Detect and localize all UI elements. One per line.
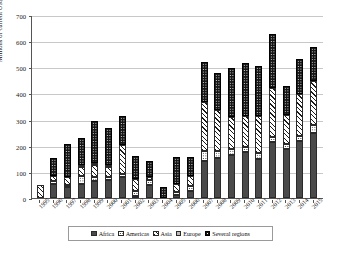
legend-item-americas[interactable]: Americas [118, 230, 149, 237]
stacked-bar[interactable] [78, 138, 85, 198]
bar-segment-several-regions [228, 68, 235, 117]
bar-segment-asia [64, 177, 71, 185]
bar-segment-africa [64, 187, 71, 198]
y-axis-tick-labels: 0100200300400500600700 [0, 0, 29, 256]
bar-segment-asia [296, 94, 303, 136]
stacked-bar[interactable] [50, 158, 57, 198]
swatch-europe-icon [176, 231, 182, 237]
bar-segment-asia [269, 88, 276, 137]
bar-segment-africa [214, 158, 221, 198]
stacked-bar[interactable] [105, 128, 112, 198]
y-tick-label: 0 [23, 196, 26, 203]
bar-segment-several-regions [146, 161, 153, 177]
legend-item-africa[interactable]: Africa [91, 230, 114, 237]
chart-legend: AfricaAmericasAsiaEuropeSeveral regions [68, 226, 273, 241]
bar-segment-africa [310, 133, 317, 198]
y-tick-label: 300 [16, 117, 26, 124]
bar-segment-asia [214, 110, 221, 152]
stacked-bar[interactable] [64, 144, 71, 198]
legend-item-europe[interactable]: Europe [176, 230, 201, 237]
bar-segment-africa [255, 159, 262, 198]
y-tick-label: 700 [16, 13, 26, 20]
swatch-africa-icon [91, 231, 97, 237]
stacked-bar[interactable] [255, 66, 262, 198]
legend-label: Africa [99, 230, 115, 237]
stacked-bar[interactable] [310, 47, 317, 198]
swatch-asia-icon [153, 231, 159, 237]
bar-segment-africa [146, 185, 153, 198]
bar-segment-several-regions [214, 73, 221, 110]
bar-segment-several-regions [119, 116, 126, 145]
bar-segment-africa [269, 142, 276, 198]
bar-segment-several-regions [64, 144, 71, 177]
bar-segment-africa [228, 155, 235, 198]
bar-segment-several-regions [50, 158, 57, 176]
bar-segment-asia [119, 145, 126, 174]
legend-label: Europe [183, 230, 201, 237]
stacked-bar[interactable] [214, 73, 221, 198]
stacked-bar[interactable] [173, 157, 180, 198]
bar-segment-africa [78, 184, 85, 198]
bar-segment-several-regions [173, 157, 180, 184]
stacked-bar[interactable] [91, 121, 98, 198]
bar-segment-asia [37, 185, 44, 198]
bar-segment-several-regions [283, 86, 290, 116]
bar-segment-africa [119, 177, 126, 198]
bar-segment-several-regions [105, 128, 112, 165]
bar-segment-several-regions [255, 66, 262, 116]
y-tick-label: 100 [16, 169, 26, 176]
stacked-bar[interactable] [242, 63, 249, 198]
bar-segment-asia [187, 176, 194, 186]
bar-segment-asia [255, 116, 262, 153]
bar-segment-asia [105, 167, 112, 177]
bar-segment-asia [228, 117, 235, 149]
legend-label: Asia [161, 230, 172, 237]
stacked-bar[interactable] [187, 157, 194, 198]
bar-segment-asia [201, 102, 208, 152]
bar-segment-americas [78, 176, 85, 184]
bar-segment-several-regions [187, 157, 194, 176]
bar-segment-several-regions [310, 47, 317, 81]
legend-label: Americas [126, 230, 149, 237]
bar-segment-africa [296, 141, 303, 198]
stacked-bar[interactable] [132, 156, 139, 198]
bar-segment-asia [132, 179, 139, 191]
bar-segment-africa [201, 161, 208, 198]
stacked-bar[interactable] [37, 185, 44, 198]
bar-segment-asia [78, 167, 85, 175]
bar-segment-asia [283, 115, 290, 143]
legend-label: Several regions [212, 230, 250, 237]
y-tick-label: 400 [16, 91, 26, 98]
bar-segment-several-regions [91, 121, 98, 163]
y-tick-label: 200 [16, 143, 26, 150]
legend-item-several-regions[interactable]: Several regions [205, 230, 250, 237]
bar-segment-asia [310, 81, 317, 125]
stacked-bar[interactable] [228, 68, 235, 198]
y-tick-label: 500 [16, 65, 26, 72]
bar-segment-asia [242, 116, 249, 147]
stacked-bar[interactable] [296, 59, 303, 198]
bar-segment-africa [187, 191, 194, 198]
stacked-bar[interactable] [160, 187, 167, 199]
stacked-bar[interactable] [283, 86, 290, 198]
y-tick-label: 600 [16, 39, 26, 46]
legend-item-asia[interactable]: Asia [153, 230, 172, 237]
bar-segment-several-regions [132, 156, 139, 178]
stacked-bar[interactable] [119, 116, 126, 198]
bar-segment-several-regions [78, 138, 85, 165]
bar-segment-several-regions [296, 59, 303, 94]
bar-segment-africa [50, 184, 57, 198]
stacked-bar[interactable] [269, 34, 276, 198]
bar-segment-africa [283, 149, 290, 198]
bar-segment-americas [214, 151, 221, 158]
swatch-americas-icon [118, 231, 124, 237]
bar-segment-africa [105, 180, 112, 198]
stacked-bar[interactable] [146, 161, 153, 198]
bar-segment-several-regions [201, 62, 208, 102]
bar-segment-several-regions [242, 63, 249, 117]
bar-segment-several-regions [269, 34, 276, 88]
stacked-bar[interactable] [201, 62, 208, 198]
bar-segment-africa [242, 152, 249, 198]
bar-segment-americas [310, 125, 317, 132]
bar-segment-asia [173, 184, 180, 192]
